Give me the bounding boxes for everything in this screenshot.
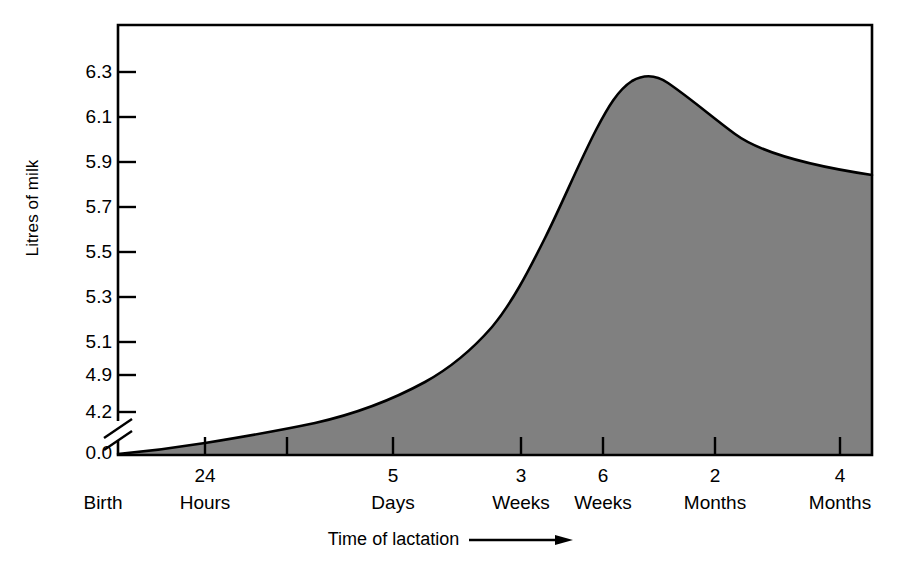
x-category-label: Months [785, 493, 895, 512]
x-category-label: Days [338, 493, 448, 512]
x-category-label: Weeks [548, 493, 658, 512]
x-category-label: Hours [150, 493, 260, 512]
x-axis-category-labels: Birth Hours Days Weeks Weeks Months Mont… [0, 0, 905, 584]
x-axis-title: Time of lactation [328, 529, 459, 549]
right-arrow-icon [469, 534, 573, 546]
x-category-label: Birth [48, 493, 158, 512]
x-axis-title-row: Time of lactation [0, 528, 905, 550]
x-category-label: Months [660, 493, 770, 512]
chart-figure: Litres of milk 6.3 6.1 5.9 5.7 5.5 5.3 5… [0, 0, 905, 584]
